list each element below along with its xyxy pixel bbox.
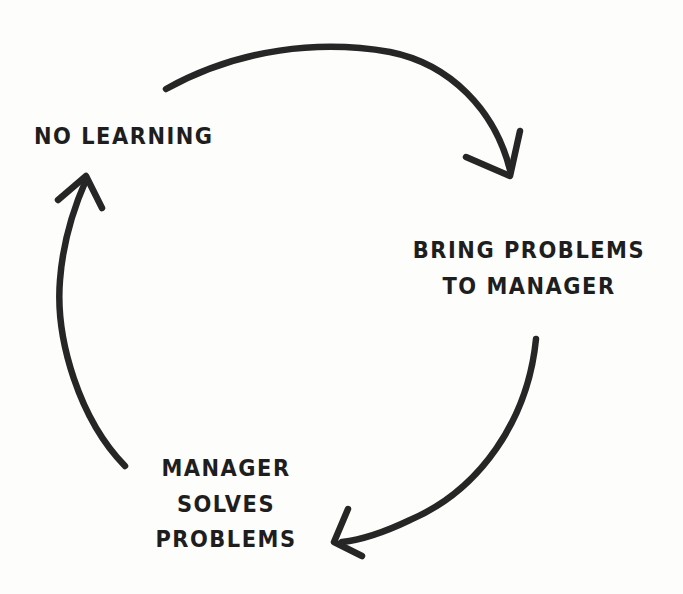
arrow-no-learning-to-bring-problems <box>166 47 520 176</box>
node-label-line: TO MANAGER <box>404 269 654 305</box>
node-label-line: PROBLEMS <box>146 522 306 558</box>
node-label-line: NO LEARNING <box>34 119 214 155</box>
node-label-line: MANAGER <box>146 451 306 487</box>
arrow-manager-solves-to-no-learning <box>58 176 125 466</box>
node-manager-solves-problems: MANAGER SOLVES PROBLEMS <box>146 451 306 558</box>
node-label-line: BRING PROBLEMS <box>404 233 654 269</box>
arrow-bring-problems-to-manager-solves <box>334 339 536 556</box>
node-bring-problems-to-manager: BRING PROBLEMS TO MANAGER <box>404 233 654 304</box>
node-label-line: SOLVES <box>146 487 306 523</box>
node-no-learning: NO LEARNING <box>34 119 214 155</box>
